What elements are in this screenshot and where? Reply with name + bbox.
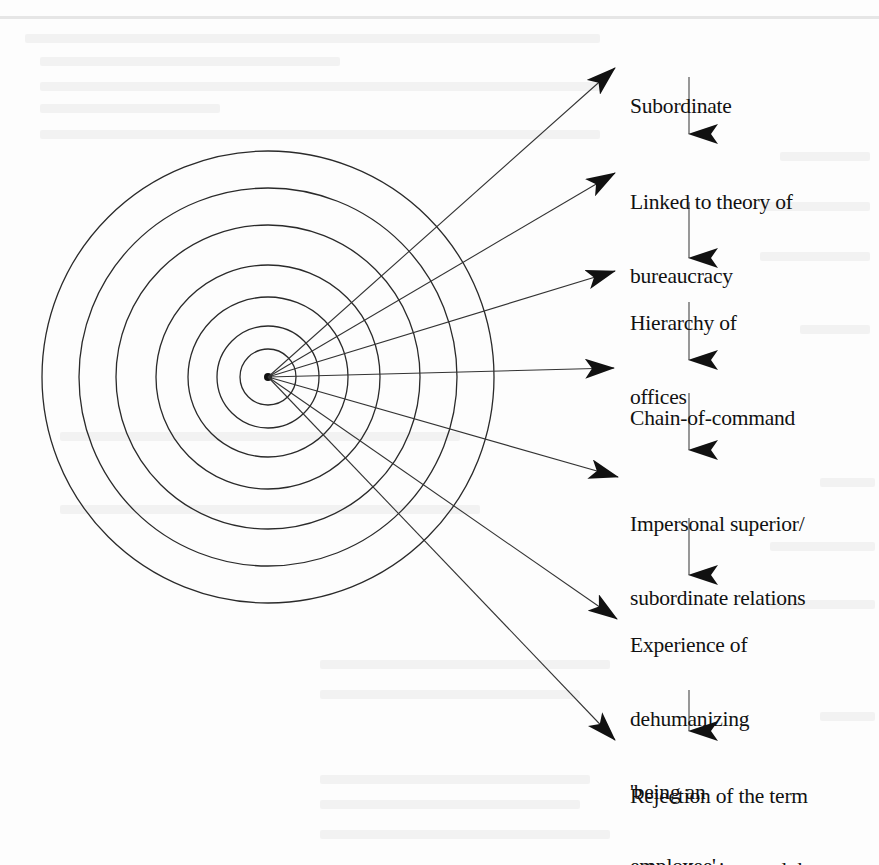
node-label-line: subordination and the [630, 858, 817, 865]
radial-arrow-hierarchy-offices [268, 271, 615, 377]
node-label-line: Chain-of-command [630, 406, 795, 431]
node-label-line: dehumanizing [630, 707, 749, 732]
radial-arrow-subordinate [268, 68, 615, 377]
radial-arrow-linked-bureaucracy [268, 173, 615, 377]
node-chain-of-command: Chain-of-command [630, 357, 795, 480]
node-rejection-subordination: Rejection of the term subordination and … [630, 735, 817, 865]
node-label-line: Linked to theory of [630, 190, 793, 215]
radial-arrow-dehumanizing-experience [268, 377, 617, 619]
node-label-line: Hierarchy of [630, 311, 737, 336]
radial-arrow-chain-of-command [268, 368, 614, 377]
diagram-page: Subordinate Linked to theory of bureaucr… [0, 0, 879, 865]
node-label-line: Impersonal superior/ [630, 512, 806, 537]
radial-arrows [268, 68, 618, 740]
node-label-line: Experience of [630, 633, 749, 658]
node-label-line: Subordinate [630, 94, 732, 119]
node-label-line: Rejection of the term [630, 784, 817, 809]
radial-arrow-impersonal-relations [268, 377, 618, 477]
